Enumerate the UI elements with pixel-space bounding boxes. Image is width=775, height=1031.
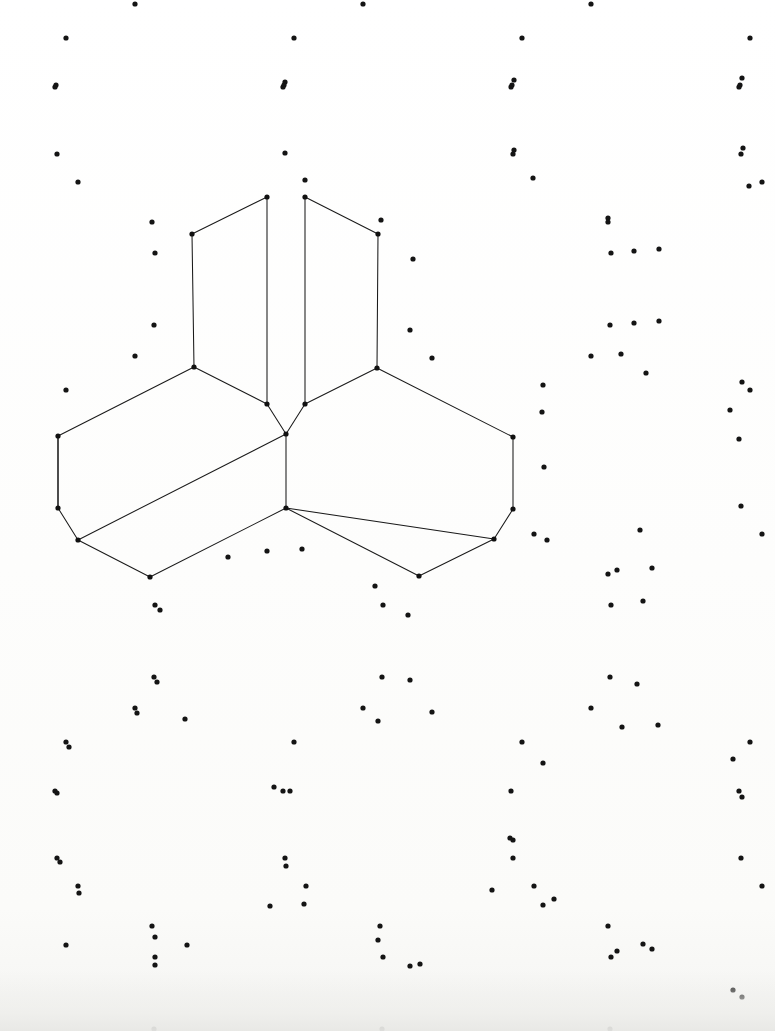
figure-edge [377,368,513,437]
figure-edge [194,367,267,404]
figure-vertex [55,433,60,438]
figure-vertex [510,506,515,511]
figure-edge [377,234,378,368]
figure-vertex [374,365,379,370]
figure-edge [305,197,378,234]
figure-vertex [264,194,269,199]
figure-vertex [416,573,421,578]
drawing-page [0,0,775,1031]
figure-vertex [491,536,496,541]
figure-edge [192,234,194,367]
figure-vertex [302,194,307,199]
figure-edge [305,368,377,404]
figure-edge [78,540,150,577]
figure-vertex [283,431,288,436]
figure-vertex [191,364,196,369]
figure-edge [150,508,286,577]
figure-edge [58,367,194,436]
figure-vertex [264,401,269,406]
figure-vertex [55,505,60,510]
figure-vertex [75,537,80,542]
isometric-figure-layer [0,0,775,1031]
figure-edge [267,404,286,434]
figure-vertex [283,505,288,510]
figure-vertex [147,574,152,579]
figure-edge [286,404,305,434]
figure-edge [58,508,78,540]
figure-edge [192,197,267,234]
figure-vertex [189,231,194,236]
figure-vertex [510,434,515,439]
figure-edge [419,539,494,576]
figure-vertex [302,401,307,406]
figure-edge [494,509,513,539]
figure-vertex [375,231,380,236]
